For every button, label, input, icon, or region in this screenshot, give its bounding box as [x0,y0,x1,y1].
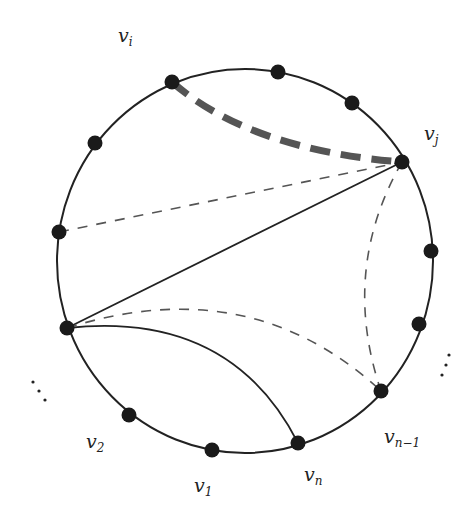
edge-vi-vj [172,82,402,162]
label-v2: v2 [86,432,104,454]
edge-l1-vn-1 [67,309,381,391]
label-vj: vj [424,124,438,146]
ellipsis-dot-right [444,363,447,366]
vertex-r1 [424,244,439,259]
ellipsis-dot-right [440,373,443,376]
edges-group [59,82,402,443]
vertex-l2 [52,225,67,240]
edge-l2-vj [59,162,402,232]
vertex-top2 [345,96,360,111]
ellipsis-dot-left [31,380,34,383]
vertex-l1 [60,321,75,336]
vertex-l3 [88,136,103,151]
vertex-vj [395,155,410,170]
vertex-vn [291,436,306,451]
edge-l1-vj [67,162,402,328]
label-vn: vn [304,465,322,487]
vertex-vi [165,75,180,90]
ellipsis-dot-right [447,353,450,356]
vertex-top1 [271,65,286,80]
label-vn-1: vn−1 [384,427,420,449]
ellipsis-dot-left [37,389,40,392]
vertex-vn-1 [374,384,389,399]
label-v1: v1 [194,476,212,498]
ellipsis-dot-left [43,398,46,401]
vertex-v2 [122,408,137,423]
vertex-v1 [205,443,220,458]
label-vi: vi [118,26,133,48]
vertex-r2 [412,317,427,332]
vertices-group [52,65,439,458]
edge-vj-vn-1 [365,162,402,391]
